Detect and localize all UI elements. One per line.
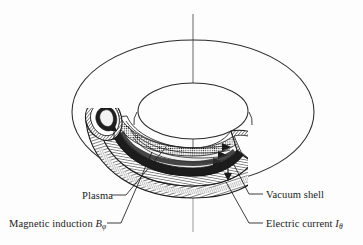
label-magnetic-text: Magnetic induction xyxy=(9,218,95,229)
label-magnetic-induction: Magnetic induction Bφ xyxy=(9,219,106,230)
label-plasma-text: Plasma xyxy=(82,190,113,201)
label-magnetic-subscript: φ xyxy=(102,222,106,231)
label-magnetic-symbol: B xyxy=(95,218,102,229)
figure-root: Plasma Magnetic induction Bφ Vacuum shel… xyxy=(0,0,363,245)
label-vacuum-text: Vacuum shell xyxy=(266,189,324,200)
label-current-text: Electric current xyxy=(266,218,335,229)
torus-diagram xyxy=(0,0,363,245)
label-current-subscript: θ xyxy=(339,222,343,231)
label-plasma: Plasma xyxy=(82,191,113,202)
label-electric-current: Electric current Iθ xyxy=(266,219,343,230)
label-vacuum-shell: Vacuum shell xyxy=(266,190,324,201)
